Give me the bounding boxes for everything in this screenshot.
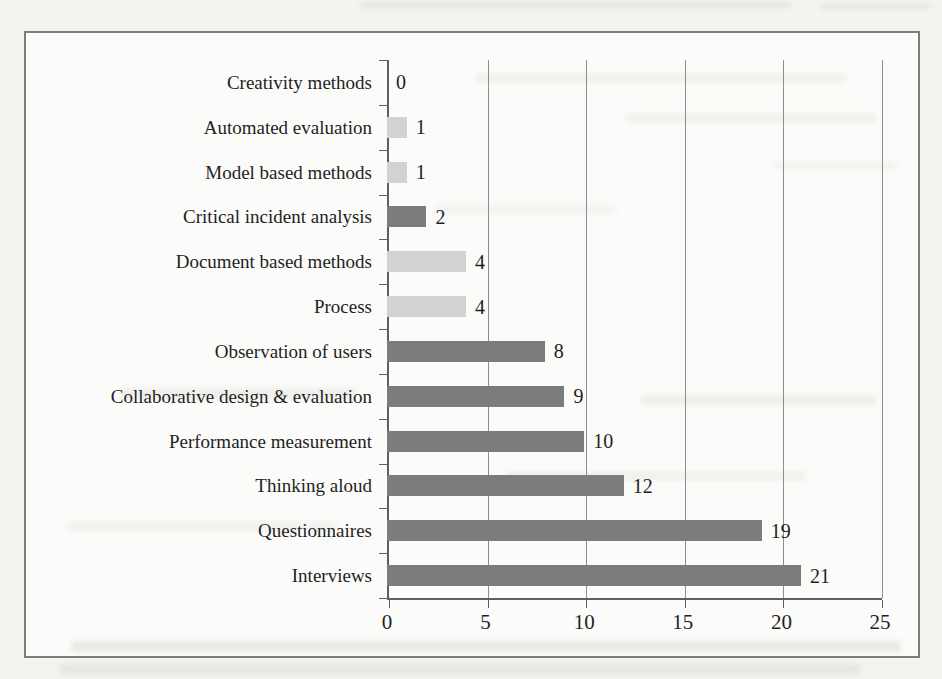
value-label: 0 — [396, 72, 406, 92]
bar — [387, 431, 584, 452]
value-label: 2 — [435, 207, 445, 227]
y-axis-tick — [379, 598, 388, 599]
bar-area: 1 — [387, 150, 880, 195]
bar-row: Document based methods4 — [26, 239, 880, 284]
bar-row: Collaborative design & evaluation9 — [26, 374, 880, 419]
category-label: Critical incident analysis — [26, 207, 387, 226]
category-label: Questionnaires — [26, 521, 387, 540]
bar — [387, 206, 426, 227]
bar — [387, 341, 545, 362]
scan-artifact — [360, 2, 790, 8]
bar-row: Model based methods1 — [26, 150, 880, 195]
value-label: 19 — [771, 521, 791, 541]
bar — [387, 520, 762, 541]
bar-area: 2 — [387, 194, 880, 239]
bar-row: Creativity methods0 — [26, 60, 880, 105]
value-label: 4 — [475, 252, 485, 272]
x-tick-label: 5 — [480, 610, 491, 635]
bar-area: 9 — [387, 374, 880, 419]
scanned-page: Creativity methods0Automated evaluation1… — [0, 0, 942, 679]
category-label: Interviews — [26, 566, 387, 585]
x-tick-label: 20 — [771, 610, 792, 635]
bar-area: 19 — [387, 508, 880, 553]
bar — [387, 162, 407, 183]
bar — [387, 117, 407, 138]
bar-row: Critical incident analysis2 — [26, 194, 880, 239]
bar-row: Questionnaires19 — [26, 508, 880, 553]
category-label: Document based methods — [26, 252, 387, 271]
bar — [387, 296, 466, 317]
x-axis-tick — [882, 600, 883, 608]
bar-row: Performance measurement10 — [26, 419, 880, 464]
category-label: Model based methods — [26, 163, 387, 182]
value-label: 1 — [416, 162, 426, 182]
bar — [387, 565, 801, 586]
x-axis-tick — [783, 600, 784, 608]
category-label: Creativity methods — [26, 73, 387, 92]
bar — [387, 386, 564, 407]
bar-area: 8 — [387, 329, 880, 374]
value-label: 1 — [416, 117, 426, 137]
category-label: Process — [26, 297, 387, 316]
bar-area: 4 — [387, 284, 880, 329]
bar-area: 4 — [387, 239, 880, 284]
category-label: Thinking aloud — [26, 476, 387, 495]
bar-row: Process4 — [26, 284, 880, 329]
category-label: Observation of users — [26, 342, 387, 361]
bar-row: Observation of users8 — [26, 329, 880, 374]
x-axis-tick-labels: 0510152025 — [387, 610, 880, 638]
bar — [387, 475, 624, 496]
value-label: 12 — [633, 476, 653, 496]
value-label: 8 — [554, 341, 564, 361]
bar-area: 10 — [387, 419, 880, 464]
category-label: Automated evaluation — [26, 118, 387, 137]
x-tick-label: 10 — [574, 610, 595, 635]
category-label: Collaborative design & evaluation — [26, 387, 387, 406]
x-axis-tick — [389, 600, 390, 608]
x-tick-label: 0 — [382, 610, 393, 635]
bar-row: Interviews21 — [26, 553, 880, 598]
value-label: 4 — [475, 297, 485, 317]
value-label: 9 — [573, 386, 583, 406]
figure-border-box: Creativity methods0Automated evaluation1… — [24, 31, 920, 658]
scan-artifact — [71, 641, 901, 652]
bar — [387, 251, 466, 272]
value-label: 21 — [810, 566, 830, 586]
scan-artifact — [820, 4, 930, 9]
bar-area: 21 — [387, 553, 880, 598]
x-axis-tick — [586, 600, 587, 608]
bar-rows: Creativity methods0Automated evaluation1… — [26, 60, 880, 598]
category-label: Performance measurement — [26, 432, 387, 451]
x-axis-tick — [685, 600, 686, 608]
gridline — [882, 60, 883, 598]
x-axis-tick — [488, 600, 489, 608]
bar-row: Automated evaluation1 — [26, 105, 880, 150]
x-tick-label: 15 — [672, 610, 693, 635]
bar-area: 1 — [387, 105, 880, 150]
value-label: 10 — [593, 431, 613, 451]
bar-row: Thinking aloud12 — [26, 463, 880, 508]
scan-artifact — [60, 664, 860, 675]
bar-area: 12 — [387, 463, 880, 508]
bar-area: 0 — [387, 60, 880, 105]
x-tick-label: 25 — [870, 610, 891, 635]
